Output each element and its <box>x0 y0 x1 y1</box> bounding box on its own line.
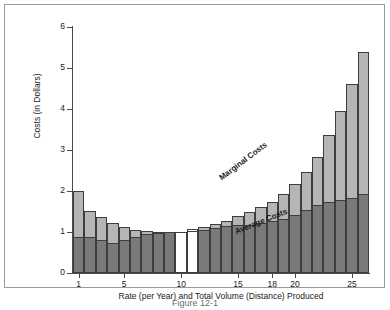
x-axis-tick <box>272 274 273 278</box>
y-axis-tick-label: 1 <box>45 227 65 236</box>
bar-average-cost <box>107 243 118 273</box>
x-axis-tick-label: 25 <box>340 279 364 289</box>
bar-average-cost <box>198 230 209 273</box>
x-axis-tick <box>238 274 239 278</box>
bar-average-cost <box>141 234 152 273</box>
bar-average-cost <box>267 221 278 273</box>
bar-average-cost <box>187 231 198 273</box>
bar-average-cost <box>175 232 186 273</box>
y-axis-tick <box>67 150 72 151</box>
y-axis-tick-label: 3 <box>45 145 65 154</box>
y-axis-tick <box>67 232 72 233</box>
bar-average-cost <box>255 223 266 273</box>
x-axis-tick-label: 5 <box>112 279 136 289</box>
y-axis-tick <box>67 273 72 274</box>
bar-average-cost <box>346 198 357 273</box>
bar-average-cost <box>312 205 323 273</box>
y-axis-tick-label-wrap: 0 <box>43 268 65 278</box>
x-axis-tick-label: 20 <box>283 279 307 289</box>
y-axis-tick <box>67 191 72 192</box>
bar-average-cost <box>119 240 130 273</box>
x-axis-tick-label: 18 <box>260 279 284 289</box>
bar-average-cost <box>153 233 164 273</box>
bar-average-cost <box>323 202 334 273</box>
x-axis-tick <box>352 274 353 278</box>
y-axis-tick-label: 4 <box>45 104 65 113</box>
x-axis-tick <box>124 274 125 278</box>
bar-average-cost <box>278 219 289 273</box>
y-axis-tick-label: 0 <box>45 268 65 277</box>
bar-average-cost <box>335 200 346 273</box>
bar-average-cost <box>96 240 107 273</box>
figure-caption: Figure 12-1 <box>0 298 390 308</box>
x-axis-tick-label: 15 <box>226 279 250 289</box>
bar-average-cost <box>210 228 221 273</box>
y-axis-tick-label: 6 <box>45 22 65 31</box>
y-axis-tick-label: 5 <box>45 63 65 72</box>
bar-average-cost <box>84 237 95 273</box>
x-axis-tick-label: 10 <box>169 279 193 289</box>
x-axis-tick <box>295 274 296 278</box>
bar-average-cost <box>358 194 369 273</box>
bar-average-cost <box>221 226 232 273</box>
y-axis-tick <box>67 27 72 28</box>
y-axis-tick-label-wrap: 2 <box>43 186 65 196</box>
bar-average-cost <box>289 215 300 273</box>
x-axis-tick-label: 1 <box>67 279 91 289</box>
bar-average-cost <box>73 237 84 273</box>
y-axis-tick-label-wrap: 5 <box>43 63 65 73</box>
y-axis-tick-label-wrap: 3 <box>43 145 65 155</box>
bar-average-cost <box>130 237 141 273</box>
y-axis-tick-label-wrap: 6 <box>43 22 65 32</box>
figure-frame: 0123456 151015182025 Marginal Costs Aver… <box>4 4 385 288</box>
x-axis-tick <box>181 274 182 278</box>
x-axis-line <box>72 273 370 274</box>
y-axis-tick <box>67 68 72 69</box>
y-axis-tick-label-wrap: 4 <box>43 104 65 114</box>
bar-average-cost <box>164 232 175 273</box>
y-axis-tick-label-wrap: 1 <box>43 227 65 237</box>
x-axis-tick <box>79 274 80 278</box>
y-axis-tick-label: 2 <box>45 186 65 195</box>
bar-average-cost <box>301 210 312 273</box>
y-axis-title: Costs (in Dollars) <box>32 56 42 156</box>
y-axis-tick <box>67 109 72 110</box>
